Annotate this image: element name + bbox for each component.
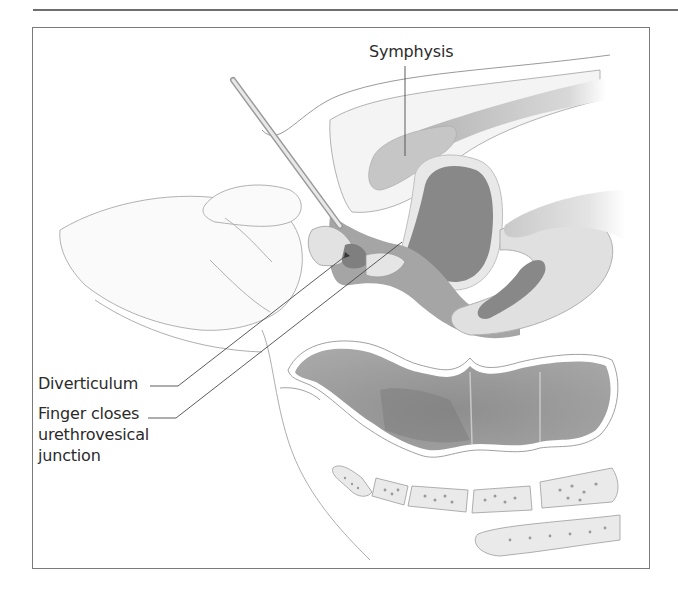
anatomical-illustration (0, 0, 678, 592)
label-finger-closes: Finger closes urethrovesical junction (38, 403, 149, 466)
label-finger-line-2: urethrovesical (38, 424, 149, 445)
vertebrae (333, 466, 620, 556)
label-diverticulum: Diverticulum (38, 373, 138, 394)
label-symphysis: Symphysis (369, 41, 453, 62)
hand (60, 185, 303, 330)
label-finger-line-1: Finger closes (38, 403, 149, 424)
label-finger-line-3: junction (38, 445, 149, 466)
rectum (280, 341, 618, 457)
